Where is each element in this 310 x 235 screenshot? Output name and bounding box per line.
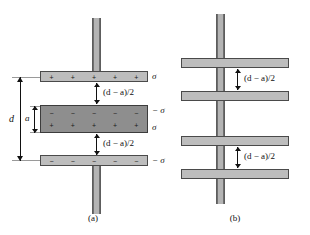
gap-arrow-lower-b [234,147,241,168]
plate-b-2 [181,91,289,101]
charge-glyph: + [50,122,54,129]
gap-label-lower-b: (d − a)/2 [244,151,275,161]
charge-glyph: + [71,122,75,129]
charge-glyph: − [113,158,117,165]
bottom-plate-a: − − − − − [40,155,148,166]
lower-stem-a [92,166,101,214]
bottom-plate-sigma-label: − σ [152,155,165,165]
bottom-plate-charges: − − − − − [41,157,147,166]
panel-a: + + + + + σ − − − − − + + + + + [0,0,170,235]
plate-b-4 [181,169,289,179]
caption-a: (a) [68,213,118,223]
panel-b: (d − a)/2 (d − a)/2 (b) [170,0,310,235]
charge-glyph: − [92,110,96,117]
gap-arrow-upper-b [234,69,241,90]
upper-stem-a [92,18,101,73]
top-plate-charges: + + + + + [41,73,147,82]
charge-glyph: + [92,74,96,81]
charge-glyph: − [134,110,138,117]
stem-b-upper [216,14,225,60]
plate-b-1 [181,58,289,68]
top-plate-sigma-label: σ [152,71,156,81]
slab-bottom-sigma-label: σ [152,122,156,132]
dimension-arrow-a [31,106,38,133]
charge-glyph: + [134,122,138,129]
charge-glyph: − [50,158,54,165]
conducting-slab-a: − − − − − + + + + + [40,105,148,133]
gap-arrow-top-a [93,83,100,104]
slab-top-sigma-label: − σ [152,105,165,115]
slab-bottom-charges: + + + + + [41,120,147,130]
charge-glyph: − [134,158,138,165]
charge-glyph: − [71,110,75,117]
dimension-label-d: d [9,113,14,124]
charge-glyph: + [92,122,96,129]
gap-label-top-a: (d − a)/2 [103,87,134,97]
dimension-arrow-d [16,77,25,161]
charge-glyph: + [50,74,54,81]
charge-glyph: + [113,74,117,81]
charge-glyph: − [71,158,75,165]
caption-b: (b) [210,213,260,223]
gap-arrow-bottom-a [93,134,100,155]
slab-top-charges: − − − − − [41,108,147,118]
charge-glyph: + [113,122,117,129]
top-plate-a: + + + + + [40,71,148,82]
gap-label-bottom-a: (d − a)/2 [103,138,134,148]
dimension-label-a: a [25,113,30,123]
charge-glyph: − [50,110,54,117]
charge-glyph: − [92,158,96,165]
charge-glyph: − [113,110,117,117]
capacitor-figure: + + + + + σ − − − − − + + + + + [0,0,310,235]
plate-b-3 [181,136,289,146]
charge-glyph: + [71,74,75,81]
charge-glyph: + [134,74,138,81]
gap-label-upper-b: (d − a)/2 [244,73,275,83]
